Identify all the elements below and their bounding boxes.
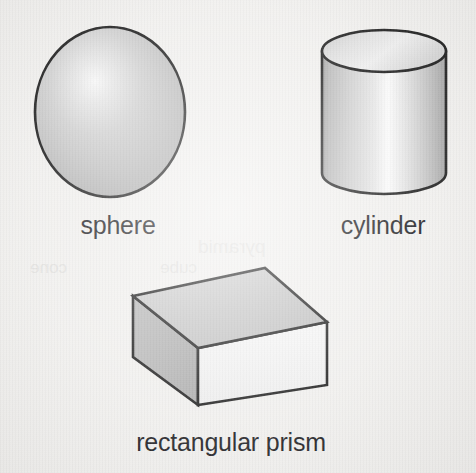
cylinder-body-outline (322, 51, 446, 194)
ghost-artifact-cube: cube (160, 258, 197, 278)
prism-top-face (133, 268, 327, 348)
cylinder-label: cylinder (300, 213, 466, 238)
rectangular-prism-shape (133, 268, 327, 405)
ghost-artifact-cone: cone (30, 258, 67, 278)
prism-front-face (198, 322, 327, 405)
illustration-page: pyramid cone cube sphere cylinder rectan… (0, 0, 476, 473)
cylinder-shape (322, 30, 446, 194)
sphere-body (35, 27, 185, 197)
prism-left-face (133, 296, 198, 405)
sphere-shape (35, 27, 185, 197)
ghost-artifact-pyramid: pyramid (198, 236, 266, 258)
cylinder-body (322, 51, 446, 194)
sphere-label: sphere (0, 213, 236, 238)
cylinder-top-face (322, 30, 446, 72)
rectangular-prism-label: rectangular prism (0, 430, 462, 455)
